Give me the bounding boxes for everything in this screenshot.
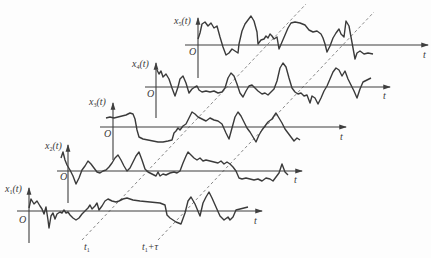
time-label-x1: t	[254, 215, 257, 226]
waveform-x1	[29, 192, 248, 228]
origin-label-x5: O	[189, 46, 196, 57]
sample-x5: x5(t)Ot	[173, 15, 428, 78]
origin-label-x4: O	[147, 88, 154, 99]
sample-x3: x3(t)Ot	[88, 96, 346, 160]
waveform-x4	[157, 63, 371, 104]
sample-label-x1: x1(t)	[4, 183, 23, 195]
waveform-x5	[198, 16, 373, 59]
time-label-x3: t	[340, 131, 343, 142]
sample-label-x2: x2(t)	[44, 140, 63, 152]
origin-label-x2: O	[60, 171, 67, 182]
dashed-line-t1	[82, 4, 306, 240]
waveform-x2	[61, 152, 288, 184]
time-marker-lines: t1t1+τ	[82, 4, 374, 253]
origin-label-x3: O	[104, 128, 111, 139]
origin-label-x1: O	[19, 214, 26, 225]
time-label-x4: t	[383, 90, 386, 101]
marker-label-t1_tau: t1+τ	[142, 241, 159, 253]
sample-label-x5: x5(t)	[173, 15, 192, 27]
sample-label-x4: x4(t)	[131, 58, 150, 70]
diagram-svg: t1t1+τ x1(t)Otx2(t)Otx3(t)Otx4(t)Otx5(t)…	[0, 0, 431, 258]
time-label-x2: t	[294, 174, 297, 185]
sample-x4: x4(t)Ot	[131, 58, 390, 118]
marker-label-t1: t1	[84, 241, 90, 253]
sample-label-x3: x3(t)	[88, 96, 107, 108]
sample-x2: x2(t)Ot	[44, 140, 302, 203]
sample-functions: x1(t)Otx2(t)Otx3(t)Otx4(t)Otx5(t)Ot	[4, 15, 428, 243]
sample-x1: x1(t)Ot	[4, 183, 262, 243]
random-process-diagram: t1t1+τ x1(t)Otx2(t)Otx3(t)Otx4(t)Otx5(t)…	[0, 0, 431, 258]
time-label-x5: t	[423, 49, 426, 60]
